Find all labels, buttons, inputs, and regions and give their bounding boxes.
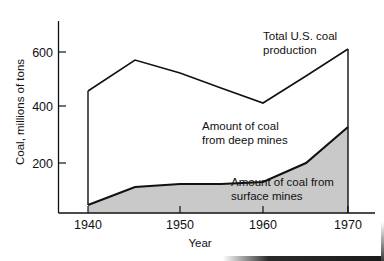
y-tick-label-200: 200 [32, 157, 53, 171]
annotation-deep-mines-line1: Amount of coal [202, 120, 279, 132]
x-axis-title: Year [188, 237, 211, 249]
x-tick-label-1940: 1940 [74, 218, 102, 232]
x-tick-label-1970: 1970 [334, 218, 362, 232]
annotation-total-production-line2: production [263, 44, 317, 56]
scan-edge-bottom [0, 256, 384, 261]
chart-svg: 600 400 200 1940 1950 1960 1970 Coal, mi… [0, 0, 384, 261]
y-tick-label-600: 600 [32, 46, 53, 60]
annotation-total-production-line1: Total U.S. coal [263, 30, 337, 42]
y-tick-label-400: 400 [32, 100, 53, 114]
coal-production-chart-figure: 600 400 200 1940 1950 1960 1970 Coal, mi… [0, 0, 384, 261]
y-axis-title: Coal, millions of tons [14, 59, 26, 165]
x-tick-label-1950: 1950 [166, 218, 194, 232]
annotation-surface-mines-line2: surface mines [231, 190, 303, 202]
annotation-surface-mines-line1: Amount of coal from [231, 176, 334, 188]
x-tick-label-1960: 1960 [249, 218, 277, 232]
annotation-deep-mines-line2: from deep mines [202, 134, 288, 146]
